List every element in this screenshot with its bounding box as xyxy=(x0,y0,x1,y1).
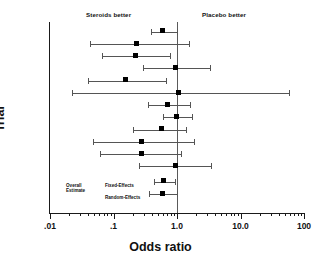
ci-upper-cap xyxy=(190,102,191,108)
point-estimate-marker xyxy=(161,178,166,183)
ci-upper-cap xyxy=(289,90,290,96)
study-row xyxy=(0,76,321,87)
x-tick-minor xyxy=(104,213,105,216)
study-row xyxy=(0,112,321,123)
x-tick-major xyxy=(241,213,242,219)
study-row xyxy=(0,137,321,148)
random-effects-label: Random-Effects xyxy=(105,195,140,200)
x-tick-minor xyxy=(133,213,134,216)
ci-upper-cap xyxy=(194,139,195,145)
ci-lower-cap xyxy=(151,29,152,35)
x-tick-minor xyxy=(221,213,222,216)
confidence-interval-line xyxy=(90,44,190,45)
ci-upper-cap xyxy=(177,29,178,35)
point-estimate-marker xyxy=(139,139,144,144)
ci-upper-cap xyxy=(170,53,171,59)
x-tick-minor xyxy=(80,213,81,216)
point-estimate-marker xyxy=(159,126,164,131)
x-tick-label: 100 xyxy=(297,221,311,231)
x-tick-minor xyxy=(285,213,286,216)
study-row xyxy=(0,51,321,62)
point-estimate-marker xyxy=(165,102,170,107)
ci-lower-cap xyxy=(72,90,73,96)
ci-lower-cap xyxy=(88,78,89,84)
x-tick-major xyxy=(114,213,115,219)
point-estimate-marker xyxy=(123,77,128,82)
ci-lower-cap xyxy=(102,53,103,59)
x-tick-minor xyxy=(99,213,100,216)
ci-lower-cap xyxy=(139,163,140,169)
x-tick-minor xyxy=(260,213,261,216)
study-row xyxy=(0,149,321,160)
overall-line-1: Overall xyxy=(66,183,82,188)
ci-lower-cap xyxy=(93,139,94,145)
x-tick-minor xyxy=(279,213,280,216)
ci-lower-cap xyxy=(133,127,134,133)
ci-upper-cap xyxy=(181,151,182,157)
x-tick-minor xyxy=(158,213,159,216)
x-tick-minor xyxy=(88,213,89,216)
x-tick-minor xyxy=(167,213,168,216)
x-tick-minor xyxy=(196,213,197,216)
overall-estimate-row xyxy=(0,189,321,200)
x-tick-minor xyxy=(174,213,175,216)
x-tick-label: 1.0 xyxy=(171,221,183,231)
ci-upper-cap xyxy=(211,163,212,169)
x-tick-minor xyxy=(163,213,164,216)
ci-lower-cap xyxy=(163,114,164,120)
x-tick-minor xyxy=(231,213,232,216)
x-tick-minor xyxy=(107,213,108,216)
ci-upper-cap xyxy=(189,41,190,47)
study-row xyxy=(0,88,321,99)
x-tick-label: .1 xyxy=(110,221,117,231)
x-tick-minor xyxy=(290,213,291,216)
ci-upper-cap xyxy=(210,65,211,71)
x-tick-minor xyxy=(207,213,208,216)
y-axis-title: Trial xyxy=(0,106,7,132)
ci-lower-cap xyxy=(100,151,101,157)
x-tick-minor xyxy=(271,213,272,216)
ci-lower-cap xyxy=(148,102,149,108)
point-estimate-marker xyxy=(160,191,165,196)
overall-estimate-row xyxy=(0,177,321,188)
x-tick-label: .01 xyxy=(44,221,56,231)
x-tick-minor xyxy=(301,213,302,216)
study-row xyxy=(0,63,321,74)
point-estimate-marker xyxy=(173,163,178,168)
ci-lower-cap xyxy=(90,41,91,47)
x-tick-minor xyxy=(215,213,216,216)
x-tick-minor xyxy=(69,213,70,216)
x-tick-minor xyxy=(238,213,239,216)
overall-estimate-label: Overall Estimate xyxy=(66,183,85,194)
study-row xyxy=(0,100,321,111)
x-tick-minor xyxy=(226,213,227,216)
point-estimate-marker xyxy=(160,28,165,33)
x-tick-minor xyxy=(152,213,153,216)
annotation-steroids-better: Steroids better xyxy=(86,11,131,18)
study-row xyxy=(0,39,321,50)
point-estimate-marker xyxy=(173,65,178,70)
point-estimate-marker xyxy=(134,41,139,46)
annotation-placebo-better: Placebo better xyxy=(202,11,246,18)
x-tick-minor xyxy=(111,213,112,216)
ci-upper-cap xyxy=(177,191,178,197)
point-estimate-marker xyxy=(133,53,138,58)
x-tick-minor xyxy=(298,213,299,216)
ci-upper-cap xyxy=(186,127,187,133)
study-row xyxy=(0,161,321,172)
point-estimate-marker xyxy=(174,114,179,119)
ci-lower-cap xyxy=(143,65,144,71)
x-tick-major xyxy=(50,213,51,219)
x-tick-label: 10.0 xyxy=(232,221,249,231)
x-tick-minor xyxy=(294,213,295,216)
forest-plot: Steroids better Placebo better .01.11.01… xyxy=(0,0,321,265)
x-tick-minor xyxy=(171,213,172,216)
overall-line-2: Estimate xyxy=(66,188,85,193)
study-row xyxy=(0,27,321,38)
x-tick-minor xyxy=(234,213,235,216)
ci-lower-cap xyxy=(149,191,150,197)
point-estimate-marker xyxy=(139,151,144,156)
x-tick-major xyxy=(177,213,178,219)
x-axis-title: Odds ratio xyxy=(0,240,321,254)
ci-lower-cap xyxy=(154,179,155,185)
